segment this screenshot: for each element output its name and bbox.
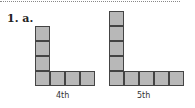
dotted-rule [0, 1, 180, 2]
square [109, 11, 124, 26]
square [35, 71, 50, 86]
problem-label: 1. a. [7, 12, 33, 25]
caption-5th: 5th [137, 91, 150, 100]
square [80, 71, 95, 86]
square [154, 71, 169, 86]
square [109, 71, 124, 86]
square [50, 71, 65, 86]
square [65, 71, 80, 86]
caption-4th: 4th [56, 91, 69, 100]
square [109, 41, 124, 56]
square [109, 56, 124, 71]
square [169, 71, 184, 86]
square [35, 41, 50, 56]
square [124, 71, 139, 86]
square [109, 26, 124, 41]
square [139, 71, 154, 86]
square [35, 56, 50, 71]
square [35, 26, 50, 41]
